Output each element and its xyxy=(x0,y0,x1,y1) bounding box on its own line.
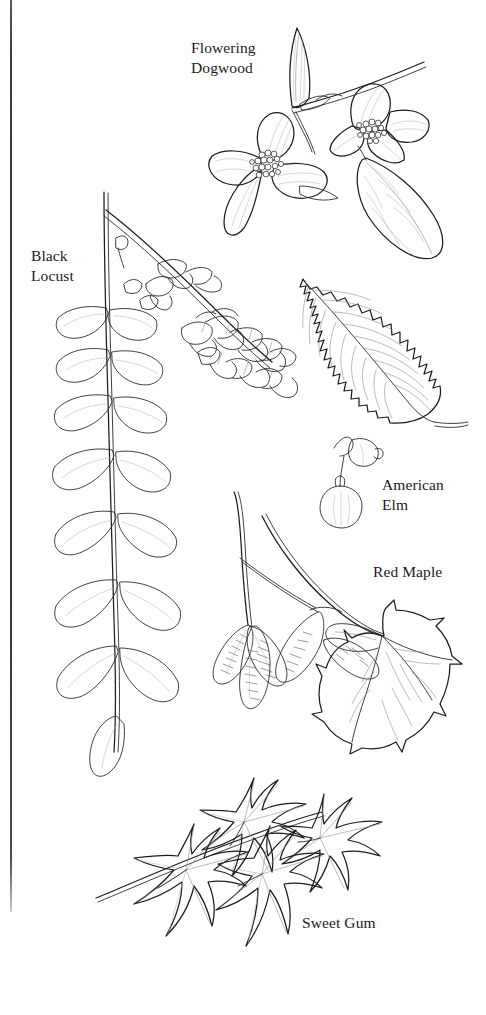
samara-hatching-4 xyxy=(245,650,260,700)
label-black-locust: Black Locust xyxy=(31,246,74,286)
botanical-plate: Flowering Dogwood Black Locust American … xyxy=(0,0,486,1015)
locust-raceme xyxy=(181,309,297,398)
samara-hatching-3 xyxy=(285,632,312,672)
dogwood-flower-center-upper xyxy=(357,119,387,144)
label-flowering-dogwood: Flowering Dogwood xyxy=(191,38,256,78)
samara-hatching-5 xyxy=(336,646,368,666)
label-sweet-gum: Sweet Gum xyxy=(302,913,376,933)
samara-hatching-1 xyxy=(221,634,247,674)
drawing-black-locust xyxy=(53,192,298,776)
samara-hatching-2 xyxy=(257,640,276,678)
dogwood-flower-center-lower xyxy=(250,150,284,178)
label-red-maple: Red Maple xyxy=(373,562,442,582)
label-american-elm: American Elm xyxy=(382,475,444,515)
page-binding-edge xyxy=(10,0,12,912)
drawing-red-maple xyxy=(213,492,462,754)
